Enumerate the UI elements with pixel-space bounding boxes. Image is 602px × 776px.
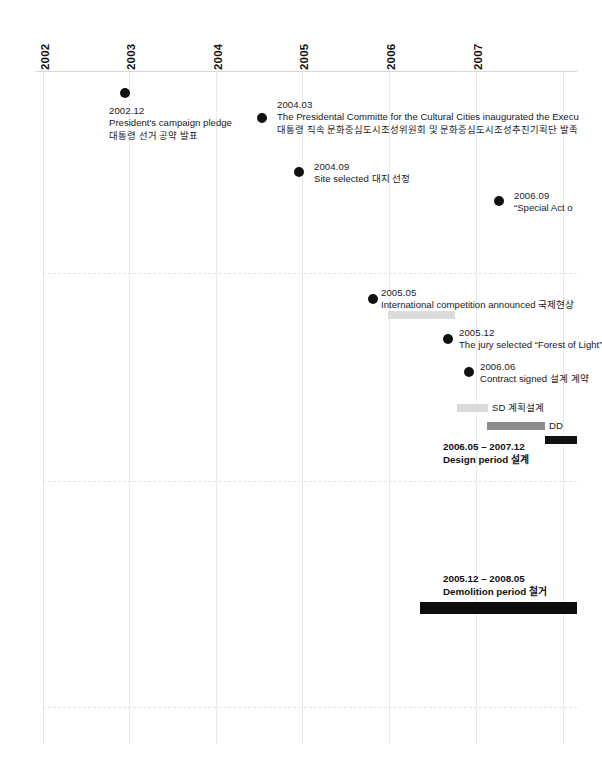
event-site-selected: 2004.09Site selected 대지 선정 [314,161,410,186]
year-label-2003: 2003 [124,30,138,70]
event-international-competition: 2005.05International competition announc… [381,287,574,312]
cd-bar [545,436,577,444]
event-date: 2004.03 [277,99,579,111]
competition-bar [388,311,455,319]
event-date: 2006.06 [480,361,589,373]
axis-rule [36,71,577,72]
section-divider [43,273,577,274]
event-date: 2002.12 [109,105,232,117]
event-date: 2004.09 [314,161,410,173]
period-range: 2006.05 – 2007.12 [443,441,529,454]
period-name: Design period 설계 [443,454,529,467]
event-description: The Presidental Committe for the Cultura… [277,111,579,123]
event-dot-international-competition[interactable] [368,294,378,304]
sd-bar [457,404,488,412]
sd-bar-label: SD 계획설계 [492,403,544,413]
event-description: Contract signed 설계 계약 [480,373,589,385]
year-label-2004: 2004 [211,30,225,70]
year-gridline [216,72,217,745]
event-dot-site-selected[interactable] [294,167,304,177]
event-description: Site selected 대지 선정 [314,173,410,185]
section-divider [43,707,577,708]
section-divider [43,481,577,482]
year-gridline [563,72,564,745]
year-gridline [43,72,44,745]
event-dot-presidential-committee[interactable] [257,113,267,123]
event-description: International competition announced 국제현상 [381,299,574,311]
design-period: 2006.05 – 2007.12Design period 설계 [443,441,529,466]
event-description: President's campaign pledge [109,117,232,129]
event-special-act: 2006.09“Special Act o [514,190,573,215]
event-dot-campaign-pledge[interactable] [120,88,130,98]
year-label-2005: 2005 [297,30,311,70]
year-label-2002: 2002 [38,30,52,70]
event-description: The jury selected “Forest of Light” [459,339,602,351]
dd-bar [487,422,545,430]
event-description-korean: 대통령 선거 공약 발표 [109,130,232,142]
dd-bar-label: DD [549,421,563,431]
demolition-period: 2005.12 – 2008.05Demolition period 철거 [443,573,547,598]
event-description: “Special Act o [514,202,573,214]
event-campaign-pledge: 2002.12President's campaign pledge대통령 선거… [109,105,232,142]
event-contract-signed: 2006.06Contract signed 설계 계약 [480,361,589,386]
demolition-bar [420,602,577,614]
event-date: 2005.12 [459,327,602,339]
event-presidential-committee: 2004.03The Presidental Committe for the … [277,99,579,136]
event-dot-contract-signed[interactable] [464,367,474,377]
year-label-2007: 2007 [471,30,485,70]
period-name: Demolition period 철거 [443,586,547,599]
event-dot-jury-selected[interactable] [443,334,453,344]
period-range: 2005.12 – 2008.05 [443,573,547,586]
event-jury-selected: 2005.12The jury selected “Forest of Ligh… [459,327,602,352]
event-date: 2006.09 [514,190,573,202]
year-gridline [129,72,130,745]
event-date: 2005.05 [381,287,574,299]
event-dot-special-act[interactable] [494,196,504,206]
year-label-2006: 2006 [384,30,398,70]
event-description-korean: 대통령 직속 문화중심도시조성위원회 및 문화중심도시조성추진기획단 발족 [277,124,579,136]
